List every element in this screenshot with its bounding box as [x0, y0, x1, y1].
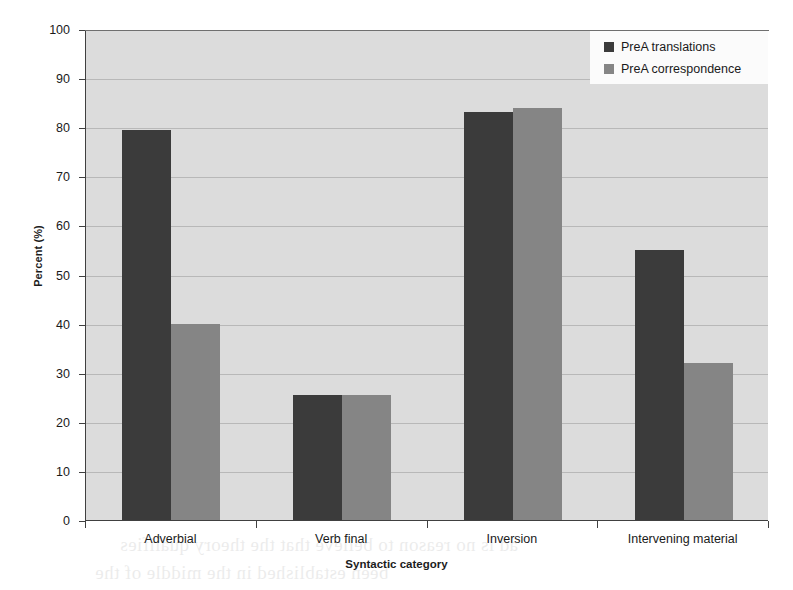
- x-axis-tick-label: Inversion: [487, 532, 538, 546]
- x-axis-tick: [427, 521, 428, 528]
- bar: [342, 395, 391, 520]
- y-axis-tick-label: 100: [8, 23, 70, 37]
- y-axis-tick-label: 10: [8, 465, 70, 479]
- x-axis-title: Syntactic category: [0, 558, 793, 570]
- legend-item-correspondence[interactable]: PreA correspondence: [604, 62, 768, 76]
- y-axis-tick-label: 50: [8, 269, 70, 283]
- bar: [122, 130, 171, 520]
- bar-chart-figure: ad is no reason to believe that the theo…: [0, 0, 793, 590]
- bar: [684, 363, 733, 520]
- bar: [171, 324, 220, 520]
- x-axis-tick: [256, 521, 257, 528]
- x-axis-tick: [85, 521, 86, 528]
- plot-area: [85, 30, 768, 521]
- x-axis-tick: [597, 521, 598, 528]
- y-axis-title: Percent (%): [32, 196, 44, 316]
- x-axis-tick: [768, 521, 769, 528]
- legend-label: PreA translations: [621, 40, 716, 54]
- bar: [635, 250, 684, 520]
- y-axis-tick-label: 20: [8, 416, 70, 430]
- y-axis-tick-label: 40: [8, 318, 70, 332]
- legend-label: PreA correspondence: [621, 62, 741, 76]
- legend-swatch-icon: [604, 42, 614, 52]
- y-axis-tick-label: 60: [8, 219, 70, 233]
- y-axis-tick-label: 90: [8, 72, 70, 86]
- legend: PreA translations PreA correspondence: [590, 31, 768, 84]
- legend-swatch-icon: [604, 64, 614, 74]
- bars-layer: [86, 30, 768, 520]
- y-axis-tick-label: 70: [8, 170, 70, 184]
- bar: [293, 395, 342, 520]
- y-axis-tick-label: 0: [8, 514, 70, 528]
- y-axis-tick-label: 80: [8, 121, 70, 135]
- x-axis-tick-label: Intervening material: [628, 532, 738, 546]
- bar: [464, 112, 513, 520]
- y-axis-tick-label: 30: [8, 367, 70, 381]
- bar: [513, 108, 562, 520]
- x-axis-tick-label: Verb final: [315, 532, 367, 546]
- legend-item-translations[interactable]: PreA translations: [604, 40, 768, 54]
- x-axis-tick-label: Adverbial: [144, 532, 196, 546]
